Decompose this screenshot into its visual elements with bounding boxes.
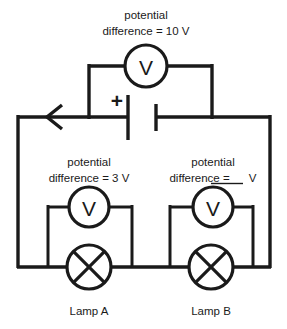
lamp-a-caption-line2: difference = 3 V	[49, 172, 130, 184]
circuit-diagram: potential difference = 10 V V +	[0, 0, 287, 329]
source-voltmeter-letter: V	[139, 56, 153, 79]
battery-plus-sign: +	[111, 89, 123, 112]
lamp-a-caption-line1: potential	[67, 156, 110, 168]
lamp-b-caption-suffix: V	[249, 172, 257, 184]
source-caption-line1: potential	[124, 9, 167, 21]
circuit-schematic: potential difference = 10 V V +	[0, 0, 287, 329]
lamp-b-caption-line1: potential	[191, 156, 234, 168]
lamp-a-label: Lamp A	[70, 305, 109, 317]
lamp-b-caption-line2: difference = V	[169, 172, 256, 184]
source-caption-line2: difference = 10 V	[102, 25, 189, 37]
lamp-b-caption-prefix: difference =	[169, 172, 232, 184]
lamp-b-voltmeter-letter: V	[206, 197, 220, 220]
lamp-a-voltmeter-letter: V	[82, 197, 96, 220]
lamp-b-blank-placeholder	[233, 172, 249, 184]
lamp-b-label: Lamp B	[191, 305, 231, 317]
